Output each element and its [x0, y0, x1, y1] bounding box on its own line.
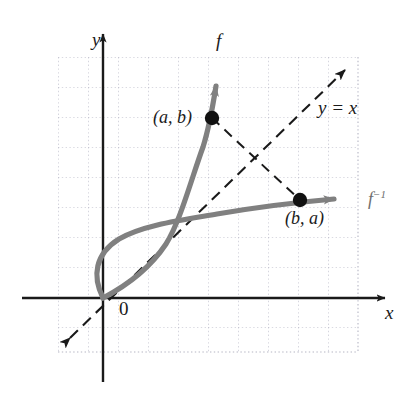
origin-label: 0: [119, 299, 129, 318]
curve-f-inverse-label: f−1: [368, 189, 386, 208]
point-a-b: [205, 111, 219, 125]
curve-f-label: f: [216, 31, 221, 50]
point-b-a-label: (b, a): [285, 209, 324, 227]
identity-line-label: y = x: [318, 98, 357, 117]
point-a-b-label: (a, b): [153, 108, 192, 126]
point-b-a: [293, 193, 307, 207]
inverse-function-figure: y x 0 f f−1 y = x (a, b) (b, a): [0, 0, 420, 406]
figure-canvas: [0, 0, 420, 406]
f-inverse-exponent: −1: [373, 188, 386, 200]
y-axis-label: y: [92, 30, 100, 49]
x-axis-label: x: [385, 303, 393, 322]
